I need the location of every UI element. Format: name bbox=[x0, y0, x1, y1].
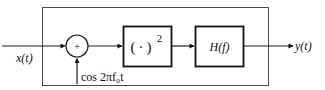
output-label: y(t) bbox=[294, 39, 312, 53]
summer-plus-symbol: + bbox=[74, 41, 80, 52]
squarer-label: (·) bbox=[131, 39, 152, 56]
squarer-close-paren: ) bbox=[147, 39, 152, 56]
squarer-exponent: 2 bbox=[157, 33, 162, 44]
squarer-dot: · bbox=[139, 39, 144, 55]
filter-label: H(f) bbox=[209, 40, 230, 54]
squarer-open-paren: ( bbox=[131, 39, 136, 56]
block-diagram: x(t) + cos 2πf₀t (·) 2 H(f) y(t) bbox=[0, 0, 325, 90]
input-label: x(t) bbox=[15, 51, 33, 65]
carrier-label: cos 2πf₀t bbox=[81, 70, 124, 84]
